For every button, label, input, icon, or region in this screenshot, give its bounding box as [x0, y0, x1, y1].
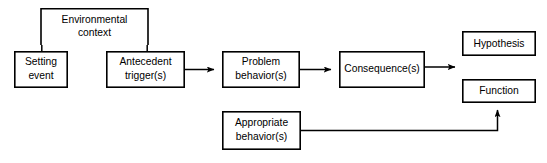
appropriate-behaviors-label-line1: Appropriate — [235, 117, 289, 128]
problem-behaviors-label-line2: behavior(s) — [235, 70, 287, 81]
appropriate-behaviors-label-line2: behavior(s) — [236, 131, 288, 142]
consequences-label: Consequence(s) — [344, 63, 420, 74]
node-problem-behaviors: Problem behavior(s) — [223, 52, 299, 87]
antecedent-triggers-label-line1: Antecedent — [119, 56, 171, 67]
node-consequences: Consequence(s) — [340, 52, 424, 87]
arrow-appropriate-to-function — [300, 110, 498, 131]
antecedent-triggers-label-line2: trigger(s) — [125, 70, 166, 81]
setting-event-label-line2: event — [28, 70, 53, 81]
flow-diagram: Environmental context Setting event Ante… — [0, 0, 547, 163]
node-setting-event: Setting event — [15, 52, 67, 87]
setting-event-label-line1: Setting — [25, 56, 57, 67]
node-function: Function — [463, 80, 535, 102]
node-environmental-context: Environmental context — [41, 9, 148, 45]
environmental-context-label-line1: Environmental — [62, 14, 128, 25]
node-antecedent-triggers: Antecedent trigger(s) — [107, 52, 184, 87]
node-hypothesis: Hypothesis — [463, 32, 535, 55]
problem-behaviors-label-line1: Problem — [242, 56, 280, 67]
function-label: Function — [479, 85, 519, 96]
node-appropriate-behaviors: Appropriate behavior(s) — [223, 112, 300, 149]
diagram-canvas: Environmental context Setting event Ante… — [0, 0, 547, 163]
environmental-context-label-line2: context — [78, 27, 111, 38]
hypothesis-label: Hypothesis — [474, 38, 525, 49]
